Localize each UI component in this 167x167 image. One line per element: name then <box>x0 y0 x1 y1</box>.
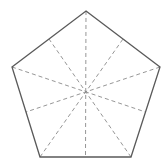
symmetry-axis-line <box>40 39 123 157</box>
pentagon-diagram <box>0 0 167 167</box>
symmetry-axis-line <box>12 67 146 112</box>
symmetry-axis-line <box>49 39 131 157</box>
symmetry-axis-line <box>26 67 160 112</box>
symmetry-axis-line <box>86 11 87 157</box>
